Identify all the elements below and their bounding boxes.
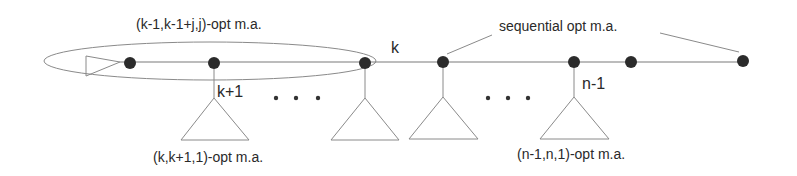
ellipsis-right-icon	[486, 96, 530, 100]
ellipsis-left-icon	[274, 96, 320, 100]
subtree-n-minus-1	[540, 62, 609, 139]
sequential-pointer-left	[447, 35, 492, 54]
subtree-triangle-icon	[331, 98, 399, 140]
path-node	[437, 56, 449, 68]
path-node	[359, 57, 371, 69]
subtree-k-next	[409, 62, 478, 139]
diagram-canvas: (k-1,k-1+j,j)-opt m.a. k sequential opt …	[0, 0, 797, 176]
subtree-left-label: (k,k+1,1)-opt m.a.	[153, 149, 263, 165]
subtree-triangle-icon	[181, 98, 249, 140]
subtree-k	[331, 62, 399, 140]
path-node	[625, 56, 637, 68]
ellipse-label: (k-1,k-1+j,j)-opt m.a.	[136, 16, 262, 32]
path-node	[568, 56, 580, 68]
node-k-plus-1-label: k+1	[217, 83, 243, 100]
diagram-svg: (k-1,k-1+j,j)-opt m.a. k sequential opt …	[0, 0, 797, 176]
subtree-right-label: (n-1,n,1)-opt m.a.	[517, 146, 625, 162]
subtree-triangle-icon	[409, 97, 478, 139]
subtree-k-plus-1	[181, 62, 249, 140]
node-k-label: k	[391, 39, 400, 56]
node-n-minus-1-label: n-1	[582, 75, 605, 92]
path-node	[208, 57, 220, 69]
sequential-label: sequential opt m.a.	[499, 18, 617, 34]
path-node	[737, 55, 749, 67]
root-triangle-icon	[86, 56, 120, 76]
sequential-pointer-right	[660, 33, 739, 52]
path-node	[124, 57, 136, 69]
subtree-triangle-icon	[540, 97, 609, 139]
